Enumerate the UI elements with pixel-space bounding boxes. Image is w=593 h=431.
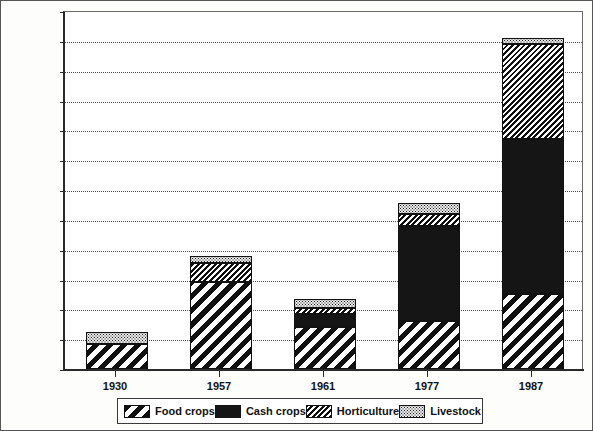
stipple-dots-swatch <box>399 405 425 418</box>
bar-segment-cash-crops[interactable] <box>294 314 356 327</box>
x-tick-mark <box>323 371 324 377</box>
bar-segment-food-crops[interactable] <box>190 282 252 369</box>
fine-diagonal-hatch-swatch <box>306 405 332 418</box>
x-tick-label-1977: 1977 <box>415 380 439 392</box>
y-tick-mark <box>60 12 65 13</box>
chart-page: Tons per km2 010203040506070809010011012… <box>0 0 593 431</box>
y-tick-mark <box>60 131 65 132</box>
bar-1930[interactable] <box>86 332 148 369</box>
bar-segment-livestock[interactable] <box>398 203 460 213</box>
bar-segment-food-crops[interactable] <box>294 327 356 369</box>
x-tick-mark <box>427 371 428 377</box>
x-axis-ticks: 19301957196119771987 <box>63 371 583 395</box>
plot-area: 0102030405060708090100110120 <box>63 11 583 369</box>
bar-1957[interactable] <box>190 256 252 369</box>
legend-label: Food crops <box>155 405 215 417</box>
legend-item-horticulture[interactable]: Horticulture <box>306 405 399 418</box>
y-tick-mark <box>60 191 65 192</box>
solid-black-swatch <box>215 405 241 418</box>
x-tick-label-1987: 1987 <box>519 380 543 392</box>
bar-segment-food-crops[interactable] <box>502 294 564 369</box>
y-tick-mark <box>60 42 65 43</box>
chart-legend: Food cropsCash cropsHorticultureLivestoc… <box>117 398 483 424</box>
y-tick-mark <box>60 72 65 73</box>
bar-1987[interactable] <box>502 38 564 369</box>
y-tick-mark <box>60 281 65 282</box>
x-tick-mark <box>531 371 532 377</box>
y-tick-mark <box>60 102 65 103</box>
bar-segment-cash-crops[interactable] <box>398 226 460 321</box>
legend-item-food-crops[interactable]: Food crops <box>124 405 215 418</box>
bar-segment-food-crops[interactable] <box>86 344 148 369</box>
legend-label: Cash crops <box>246 405 306 417</box>
x-tick-mark <box>115 371 116 377</box>
bar-1977[interactable] <box>398 203 460 369</box>
legend-label: Horticulture <box>337 405 399 417</box>
bar-segment-food-crops[interactable] <box>398 321 460 369</box>
y-tick-mark <box>60 310 65 311</box>
bar-segment-livestock[interactable] <box>294 299 356 308</box>
bar-segment-horticulture[interactable] <box>294 308 356 314</box>
y-tick-mark <box>60 340 65 341</box>
bar-segment-livestock[interactable] <box>190 256 252 263</box>
bar-segment-horticulture[interactable] <box>398 214 460 226</box>
legend-item-livestock[interactable]: Livestock <box>399 405 481 418</box>
x-tick-label-1930: 1930 <box>103 380 127 392</box>
legend-item-cash-crops[interactable]: Cash crops <box>215 405 306 418</box>
bar-segment-horticulture[interactable] <box>190 263 252 282</box>
bar-segment-livestock[interactable] <box>86 332 148 344</box>
y-tick-mark <box>60 251 65 252</box>
bar-segment-horticulture[interactable] <box>502 44 564 139</box>
bar-1961[interactable] <box>294 299 356 369</box>
wide-diagonal-hatch-swatch <box>124 405 150 418</box>
legend-label: Livestock <box>430 405 481 417</box>
y-tick-mark <box>60 221 65 222</box>
x-tick-label-1957: 1957 <box>207 380 231 392</box>
bar-segment-cash-crops[interactable] <box>502 139 564 294</box>
x-tick-mark <box>219 371 220 377</box>
y-tick-mark <box>60 161 65 162</box>
bar-segment-livestock[interactable] <box>502 38 564 44</box>
x-tick-label-1961: 1961 <box>311 380 335 392</box>
